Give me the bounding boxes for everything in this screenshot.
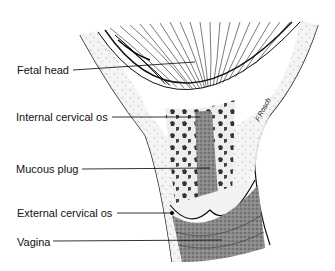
label-internal-cervical-os: Internal cervical os: [16, 111, 108, 123]
cervix-illustration: [0, 0, 335, 271]
label-external-cervical-os: External cervical os: [17, 207, 112, 219]
label-vagina: Vagina: [17, 236, 50, 248]
label-mucous-plug: Mucous plug: [16, 163, 78, 175]
label-fetal-head: Fetal head: [17, 64, 69, 76]
